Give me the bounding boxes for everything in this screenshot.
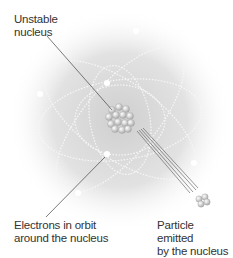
- electron-icon: [104, 151, 110, 157]
- electron-icon: [75, 190, 81, 196]
- nucleus-label: Unstable nucleus: [14, 13, 58, 39]
- electron-icon: [37, 91, 43, 97]
- electron-icon: [104, 80, 110, 86]
- particle-label: Particle emitted by the nucleus: [157, 219, 233, 258]
- electron-icon: [191, 160, 197, 166]
- electrons-label: Electrons in orbit around the nucleus: [14, 219, 108, 245]
- electron-icon: [133, 28, 139, 34]
